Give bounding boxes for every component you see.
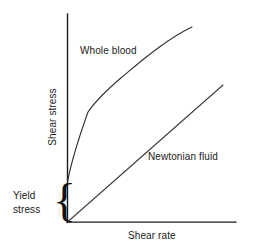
rheology-chart-figure: { Whole blood Newtonian fluid Shear rate… bbox=[0, 0, 254, 251]
y-axis-label: Shear stress bbox=[47, 88, 58, 145]
yield-stress-brace: { bbox=[53, 174, 76, 228]
yield-stress-label-line1: Yield bbox=[13, 189, 40, 203]
series-label-newtonian-fluid: Newtonian fluid bbox=[148, 151, 218, 162]
yield-stress-label-line2: stress bbox=[13, 203, 40, 217]
series-label-whole-blood: Whole blood bbox=[80, 45, 137, 56]
x-axis-label: Shear rate bbox=[128, 230, 176, 241]
yield-stress-label: Yield stress bbox=[13, 189, 40, 217]
